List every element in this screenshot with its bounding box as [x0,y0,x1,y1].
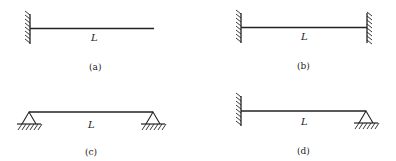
pinned-support-icon [17,112,42,130]
fixed-wall-icon [25,11,30,44]
panel-b: L (b) [236,10,372,71]
panel-a: L (a) [25,11,154,72]
length-label: L [300,31,308,42]
length-label: L [300,116,308,127]
panel-caption: (d) [297,146,310,156]
length-label: L [90,32,98,43]
fixed-wall-icon [236,93,241,126]
panel-caption: (c) [85,147,97,157]
panel-caption: (b) [297,61,310,71]
pinned-support-icon [354,111,379,129]
panel-caption: (a) [89,62,101,72]
fixed-wall-icon [236,10,241,43]
pinned-support-icon [141,112,166,130]
fixed-wall-icon [367,12,372,44]
panel-d: L (d) [236,93,379,156]
length-label: L [87,119,95,130]
beam-support-diagram: L (a) L (b) L (c) L (d) [0,0,396,161]
panel-c: L (c) [17,112,166,157]
